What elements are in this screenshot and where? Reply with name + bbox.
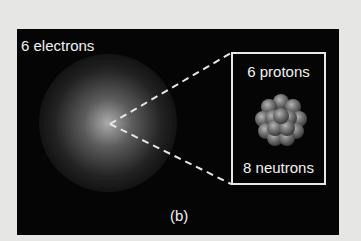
figure-label: (b) — [170, 208, 188, 223]
nucleus-icon — [253, 92, 309, 148]
neutrons-label: 8 neutrons — [233, 160, 324, 175]
atom-diagram-panel: 6 electrons 6 protons — [17, 29, 339, 235]
electrons-label: 6 electrons — [21, 38, 94, 53]
nucleus-inset: 6 protons 8 neutrons — [231, 52, 326, 185]
protons-label: 6 protons — [233, 64, 324, 79]
